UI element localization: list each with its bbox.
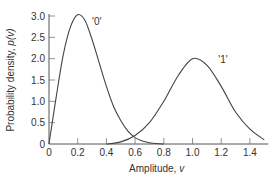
x-tick-label: 0.8	[157, 147, 171, 158]
y-tick-label: 2.5	[31, 32, 45, 43]
x-tick-label: 0	[46, 147, 52, 158]
curve-label-1: '1'	[218, 54, 227, 65]
x-tick-label: 0.6	[128, 147, 142, 158]
x-tick-label: 0.2	[71, 147, 85, 158]
probability-density-chart: 00.20.40.60.81.01.21.400.51.01.52.02.53.…	[0, 0, 279, 185]
curve-1	[106, 58, 264, 144]
x-tick-label: 1.2	[214, 147, 228, 158]
y-tick-label: 1.5	[31, 75, 45, 86]
y-axis-label: Probability density, p(v)	[5, 28, 16, 131]
y-tick-label: 2.0	[31, 53, 45, 64]
y-tick-label: 0.5	[31, 117, 45, 128]
x-tick-label: 0.4	[99, 147, 113, 158]
curve-0	[49, 14, 164, 144]
curve-label-0: '0'	[92, 16, 101, 27]
y-tick-label: 0	[39, 139, 45, 150]
x-tick-label: 1.4	[243, 147, 257, 158]
y-tick-label: 3.0	[31, 11, 45, 22]
x-tick-label: 1.0	[186, 147, 200, 158]
y-tick-label: 1.0	[31, 96, 45, 107]
plot-area: 00.20.40.60.81.01.21.400.51.01.52.02.53.…	[0, 0, 279, 185]
x-axis-label: Amplitude, v	[129, 163, 185, 174]
